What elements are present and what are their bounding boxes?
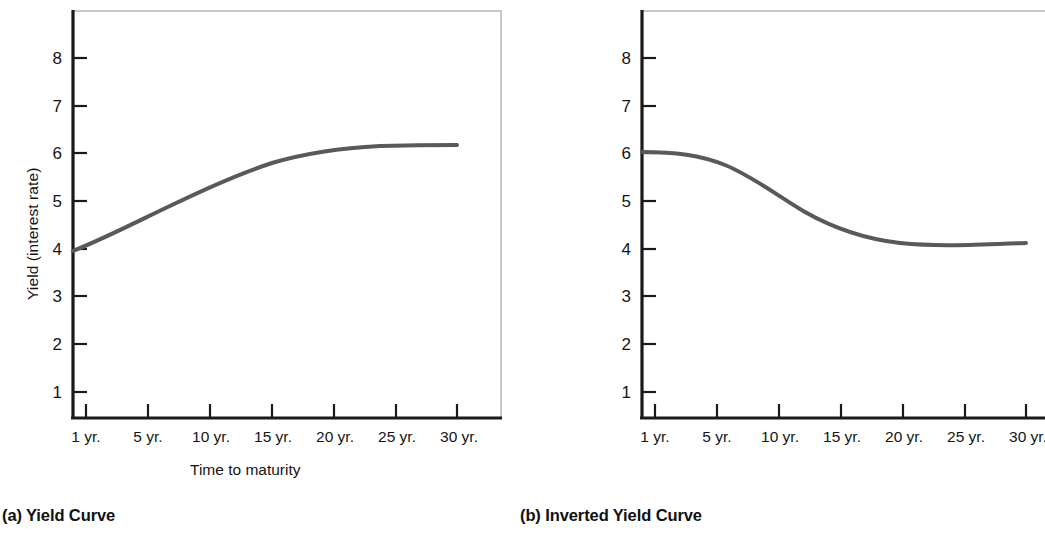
x-tick-label: 1 yr. (640, 428, 669, 446)
y-tick-label: 8 (622, 49, 631, 68)
chart-svg-b: 8 7 6 5 4 3 2 1 (520, 0, 1045, 470)
x-tick-label: 5 yr. (702, 428, 731, 446)
y-tick-label: 5 (622, 192, 631, 211)
y-tick-label: 7 (622, 97, 631, 116)
x-axis-title: Time to maturity (190, 461, 301, 479)
chart-svg-a: 8 7 6 5 4 3 2 1 (0, 0, 520, 470)
y-tick-label: 7 (53, 97, 62, 116)
x-tick-label: 15 yr. (823, 428, 861, 446)
x-tick-label: 10 yr. (192, 428, 230, 446)
x-tick-label: 10 yr. (761, 428, 799, 446)
x-tick-marks (655, 404, 1026, 418)
y-tick-label: 1 (53, 383, 62, 402)
x-tick-marks (86, 404, 457, 418)
x-tick-label: 25 yr. (947, 428, 985, 446)
y-tick-marks (73, 58, 87, 392)
y-tick-label: 3 (53, 287, 62, 306)
x-tick-label: 20 yr. (885, 428, 923, 446)
y-tick-marks (642, 58, 656, 392)
x-tick-label: 1 yr. (71, 428, 100, 446)
y-tick-label: 2 (53, 335, 62, 354)
y-axis-title: Yield (interest rate) (24, 168, 42, 300)
x-tick-label: 25 yr. (378, 428, 416, 446)
x-tick-label: 5 yr. (133, 428, 162, 446)
y-tick-labels: 8 7 6 5 4 3 2 1 (622, 49, 631, 402)
yield-curve-line (73, 145, 457, 251)
x-tick-label: 30 yr. (440, 428, 478, 446)
x-tick-label: 20 yr. (316, 428, 354, 446)
y-tick-label: 1 (622, 383, 631, 402)
panel-caption: (b) Inverted Yield Curve (520, 506, 702, 525)
plot-area-b: 8 7 6 5 4 3 2 1 (520, 0, 1045, 470)
y-tick-label: 6 (622, 144, 631, 163)
y-tick-label: 4 (53, 240, 62, 259)
panel-yield-curve: 8 7 6 5 4 3 2 1 (0, 0, 520, 539)
y-tick-label: 4 (622, 240, 631, 259)
y-tick-label: 5 (53, 192, 62, 211)
y-tick-labels: 8 7 6 5 4 3 2 1 (53, 49, 62, 402)
yield-curve-figure: 8 7 6 5 4 3 2 1 (0, 0, 1045, 539)
y-tick-label: 3 (622, 287, 631, 306)
y-tick-label: 2 (622, 335, 631, 354)
x-tick-label: 30 yr. (1009, 428, 1045, 446)
panel-inverted-yield-curve: 8 7 6 5 4 3 2 1 (520, 0, 1045, 539)
panel-caption: (a) Yield Curve (2, 506, 115, 525)
y-tick-label: 6 (53, 144, 62, 163)
x-tick-label: 15 yr. (254, 428, 292, 446)
y-tick-label: 8 (53, 49, 62, 68)
inverted-yield-curve-line (642, 152, 1026, 245)
plot-area-a: 8 7 6 5 4 3 2 1 (0, 0, 520, 470)
